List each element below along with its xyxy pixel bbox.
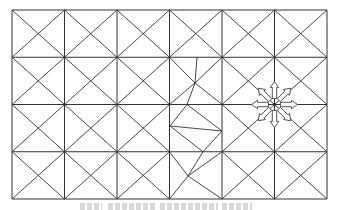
caption-text-fragment xyxy=(222,203,252,210)
deformed-mesh-segment xyxy=(203,131,222,152)
deformed-mesh-region xyxy=(170,57,223,199)
caption-text-fragment xyxy=(160,203,218,210)
center-node xyxy=(273,103,276,106)
displacement-arrow-star xyxy=(252,82,298,128)
deformed-mesh-segment xyxy=(170,105,187,127)
deformed-mesh-segment xyxy=(170,126,222,131)
outward-arrow-icon xyxy=(281,100,298,108)
deformed-mesh-segment xyxy=(188,152,222,176)
deformed-mesh-segment xyxy=(187,105,222,132)
deformed-mesh-segment xyxy=(188,176,222,199)
caption-text-fragment xyxy=(80,203,102,210)
deformed-mesh-segment xyxy=(195,83,222,105)
deformed-mesh-segment xyxy=(170,176,189,199)
deformed-mesh-segment xyxy=(188,152,203,176)
deformed-mesh-segment xyxy=(170,57,196,83)
deformed-mesh-segment xyxy=(195,57,197,83)
outward-arrow-icon xyxy=(270,82,278,99)
outward-arrow-icon xyxy=(276,85,294,103)
outward-arrow-icon xyxy=(276,106,294,124)
deformed-mesh-segment xyxy=(170,152,189,176)
caption-text-fragment xyxy=(108,203,156,210)
outward-arrow-icon xyxy=(270,111,278,128)
outward-arrow-icon xyxy=(255,106,273,124)
mesh-diagram xyxy=(0,0,337,210)
outward-arrow-icon xyxy=(252,100,269,108)
deformed-mesh-segment xyxy=(170,126,203,152)
deformed-mesh-segment xyxy=(195,57,222,83)
outward-arrow-icon xyxy=(255,85,273,103)
